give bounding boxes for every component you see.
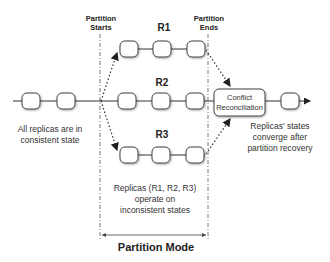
consistent-note-line1: All replicas are in [4,124,96,135]
partition-ends-line1: Partition [188,14,230,23]
node-consistent-2 [57,93,75,109]
replica-r3-label: R3 [150,129,174,140]
merge-arrow-r3 [206,119,230,154]
converge-note-line1: Replicas' states [232,121,328,132]
conflict-reconciliation-label: Conflict Reconciliation [214,93,265,113]
consistent-note-line2: consistent state [4,135,96,146]
partition-starts-label: Partition Starts [80,14,122,32]
replica-r2-label: R2 [150,77,174,88]
node-converged [281,93,299,109]
partition-ends-line2: Ends [188,23,230,32]
merge-arrow-r1 [206,50,230,86]
partition-starts-line1: Partition [80,14,122,23]
node-r1-2 [153,41,171,57]
reconciliation-line2: Reconciliation [214,103,265,113]
converge-note: Replicas' states converge after partitio… [232,121,328,154]
partition-mode-label: Partition Mode [104,241,208,253]
node-r2-1 [118,93,136,109]
fork-arrow-r3 [101,101,117,150]
node-r1-1 [120,41,138,57]
converge-note-line2: converge after [232,132,328,143]
inconsistent-note-line3: inconsistent states [105,205,205,216]
node-r1-3 [187,41,205,57]
node-r2-3 [186,93,204,109]
node-r3-2 [152,147,170,163]
node-r3-1 [120,147,138,163]
reconciliation-line1: Conflict [214,93,265,103]
inconsistent-state-note: Replicas (R1, R2, R3) operate on inconsi… [105,183,205,216]
inconsistent-note-line2: operate on [105,194,205,205]
replica-r1-label: R1 [152,22,176,33]
partition-starts-line2: Starts [80,23,122,32]
fork-arrow-r1 [101,53,117,101]
node-r2-2 [152,93,170,109]
partition-ends-label: Partition Ends [188,14,230,32]
converge-note-line3: partition recovery [232,143,328,154]
node-r3-3 [186,147,204,163]
inconsistent-note-line1: Replicas (R1, R2, R3) [105,183,205,194]
node-consistent-1 [22,93,40,109]
consistent-state-note: All replicas are in consistent state [4,124,96,146]
